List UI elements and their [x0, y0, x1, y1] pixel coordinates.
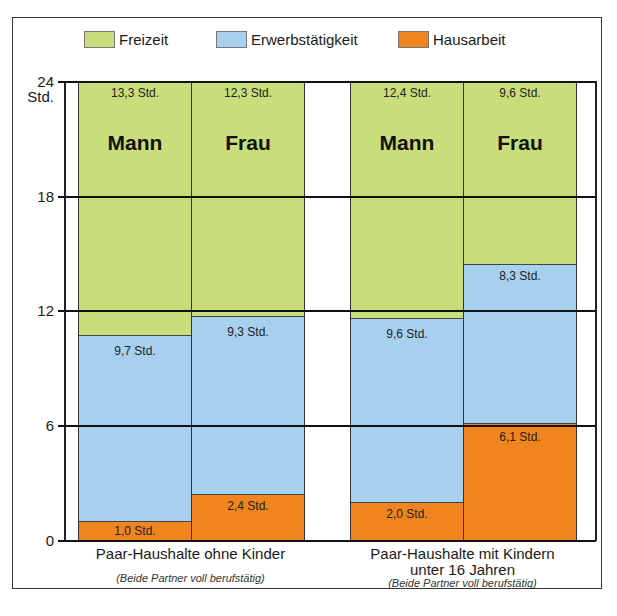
gridline-18	[58, 196, 596, 198]
segment-erwerbstaetigkeit: 9,3 Std.	[192, 316, 304, 494]
value-label-freizeit: 12,3 Std.	[192, 86, 304, 100]
plot-right-border	[595, 81, 597, 541]
gridline-6	[58, 425, 596, 427]
sex-label: Mann	[79, 131, 191, 155]
sex-label: Frau	[192, 131, 304, 155]
segment-freizeit: 13,3 Std. Mann	[79, 81, 191, 335]
segment-hausarbeit: 2,0 Std.	[351, 502, 463, 540]
segment-erwerbstaetigkeit: 9,6 Std.	[351, 318, 463, 502]
value-label-freizeit: 13,3 Std.	[79, 86, 191, 100]
value-label-erwerbstaetigkeit: 9,7 Std.	[79, 344, 191, 358]
value-label-freizeit: 12,4 Std.	[351, 86, 463, 100]
sex-label: Frau	[464, 131, 576, 155]
value-label-erwerbstaetigkeit: 9,3 Std.	[192, 325, 304, 339]
category-label-mit-kindern-line2: unter 16 Jahren	[330, 561, 595, 578]
value-label-hausarbeit: 2,4 Std.	[192, 499, 304, 513]
value-label-hausarbeit: 6,1 Std.	[464, 430, 576, 444]
y-axis-unit: Std.	[14, 89, 54, 104]
value-label-erwerbstaetigkeit: 8,3 Std.	[464, 269, 576, 283]
segment-freizeit: 12,3 Std. Frau	[192, 81, 304, 316]
y-tick-6: 6	[14, 418, 54, 433]
y-tick-18: 18	[14, 189, 54, 204]
category-label-ohne-kinder: Paar-Haushalte ohne Kinder	[58, 545, 323, 562]
segment-hausarbeit: 6,1 Std.	[464, 423, 576, 540]
value-label-freizeit: 9,6 Std.	[464, 86, 576, 100]
y-tick-24: 24	[14, 74, 54, 89]
segment-hausarbeit: 2,4 Std.	[192, 494, 304, 540]
segment-freizeit: 9,6 Std. Frau	[464, 81, 576, 264]
y-tick-0: 0	[14, 533, 54, 548]
value-label-hausarbeit: 2,0 Std.	[351, 507, 463, 521]
segment-freizeit: 12,4 Std. Mann	[351, 81, 463, 318]
value-label-erwerbstaetigkeit: 9,6 Std.	[351, 327, 463, 341]
segment-erwerbstaetigkeit: 9,7 Std.	[79, 335, 191, 521]
plot-area: 0 6 12 18 24 Std. 13,3 Std. Mann 9,7 Std…	[0, 0, 617, 616]
category-label-mit-kindern-line1: Paar-Haushalte mit Kindern	[330, 545, 595, 562]
value-label-hausarbeit: 1,0 Std.	[79, 524, 191, 538]
gridline-12	[58, 310, 596, 312]
category-subtitle-ohne-kinder: (Beide Partner voll berufstätig)	[58, 572, 323, 584]
segment-hausarbeit: 1,0 Std.	[79, 521, 191, 540]
category-subtitle-mit-kindern: (Beide Partner voll berufstätig)	[330, 577, 595, 589]
gridline-24	[58, 81, 596, 83]
segment-erwerbstaetigkeit: 8,3 Std.	[464, 264, 576, 423]
gridline-0	[58, 540, 596, 542]
y-tick-12: 12	[14, 303, 54, 318]
sex-label: Mann	[351, 131, 463, 155]
